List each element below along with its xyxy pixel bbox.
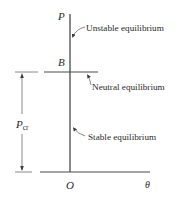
stable-equilibrium-label: Stable equilibrium (88, 132, 156, 142)
neutral-equilibrium-label: Neutral equilibrium (92, 82, 165, 92)
unstable-leader-arrow-icon (73, 27, 86, 37)
theta-axis-label: θ (145, 179, 150, 190)
neutral-leader-arrow-icon (88, 75, 92, 85)
origin-label: O (66, 179, 74, 191)
dimension-arrow-up-icon (20, 73, 24, 78)
equilibrium-diagram: P B O θ Pcr Unstable equilibrium Neutral… (0, 0, 196, 201)
critical-load-label: Pcr (15, 118, 29, 132)
unstable-equilibrium-label: Unstable equilibrium (86, 23, 164, 33)
bifurcation-point-label: B (58, 56, 65, 68)
stable-leader-arrow-icon (74, 128, 86, 136)
p-axis-label: P (57, 10, 65, 22)
dimension-arrow-down-icon (20, 166, 24, 171)
